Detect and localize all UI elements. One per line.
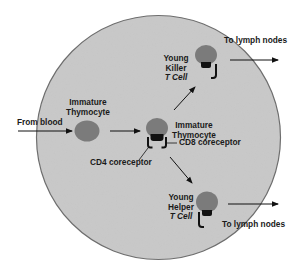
thymus-t-cell-development-diagram: From blood Immature Thymocyte Immature T…	[0, 0, 302, 272]
label-immature-thymocyte-left: Immature Thymocyte	[64, 98, 112, 117]
tcr-receptor-icon	[201, 62, 211, 68]
label-to-lymph-nodes-top: To lymph nodes	[224, 36, 287, 46]
label-line: T Cell	[158, 73, 194, 83]
label-cd4-coreceptor: CD4 coreceptor	[90, 158, 152, 168]
tcr-receptor-icon	[151, 134, 164, 141]
label-line: T Cell	[163, 212, 199, 222]
label-line: Thymocyte	[64, 108, 112, 118]
tcr-receptor-icon	[202, 210, 212, 216]
label-to-lymph-nodes-bottom: To lymph nodes	[222, 220, 285, 230]
label-cd8-coreceptor: CD8 coreceptor	[179, 138, 241, 148]
label-from-blood: From blood	[17, 118, 63, 128]
label-young-killer-t-cell: Young Killer T Cell	[158, 54, 194, 83]
immature-thymocyte-left-cell	[75, 121, 100, 142]
label-young-helper-t-cell: Young Helper T Cell	[163, 193, 199, 222]
